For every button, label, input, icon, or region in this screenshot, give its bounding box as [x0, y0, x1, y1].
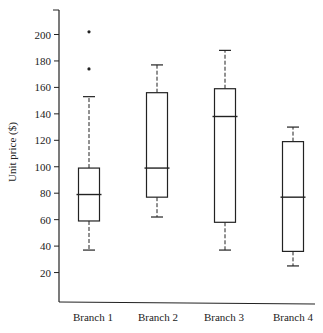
y-axis: 20406080100120140160180200: [35, 10, 60, 302]
y-tick-label: 40: [40, 240, 52, 252]
y-tick-label: 80: [40, 187, 52, 199]
x-axis-line: [59, 302, 315, 304]
box-2: [145, 65, 170, 217]
y-tick-label: 60: [40, 214, 52, 226]
x-axis: Branch 1Branch 2Branch 3Branch 4: [59, 302, 315, 323]
category-label: Branch 3: [204, 311, 245, 323]
boxes: [77, 30, 306, 266]
box-4: [281, 127, 306, 266]
y-axis-title: Unit price ($): [6, 122, 19, 182]
y-tick-label: 20: [40, 267, 52, 279]
y-tick-label: 160: [35, 81, 52, 93]
y-tick-label: 120: [35, 134, 52, 146]
box-plot-chart: 20406080100120140160180200 Branch 1Branc…: [0, 0, 323, 333]
iqr-box: [215, 89, 236, 223]
y-tick-label: 200: [35, 29, 52, 41]
outlier-point: [87, 67, 90, 70]
y-tick-label: 180: [35, 55, 52, 67]
iqr-box: [147, 93, 168, 197]
category-label: Branch 4: [273, 311, 314, 323]
y-tick-label: 140: [35, 108, 52, 120]
box-3: [213, 50, 238, 250]
y-tick-label: 100: [35, 161, 52, 173]
box-1: [77, 30, 102, 250]
outlier-point: [87, 30, 90, 33]
category-label: Branch 1: [73, 311, 113, 323]
category-label: Branch 2: [138, 311, 178, 323]
